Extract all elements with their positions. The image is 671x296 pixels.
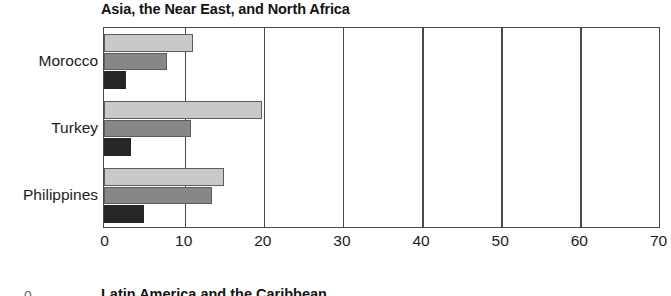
bar-turkey-series-2 bbox=[104, 120, 191, 138]
y-axis-category-labels: MoroccoTurkeyPhilippines bbox=[0, 27, 98, 228]
gridline-30 bbox=[343, 28, 345, 227]
bar-morocco-series-2 bbox=[104, 53, 167, 71]
chart-figure: Asia, the Near East, and North Africa Mo… bbox=[0, 0, 671, 296]
next-panel-title: Latin America and the Caribbean bbox=[101, 286, 327, 296]
next-panel-tick: 0 bbox=[24, 288, 32, 296]
bar-morocco-series-1 bbox=[104, 34, 193, 52]
x-tick-20: 20 bbox=[254, 232, 271, 250]
category-label-morocco: Morocco bbox=[0, 52, 98, 70]
x-tick-10: 10 bbox=[175, 232, 192, 250]
gridline-50 bbox=[501, 28, 503, 227]
chart-title: Asia, the Near East, and North Africa bbox=[101, 1, 350, 17]
x-tick-0: 0 bbox=[100, 232, 109, 250]
gridline-40 bbox=[422, 28, 424, 227]
gridline-20 bbox=[264, 28, 266, 227]
gridline-60 bbox=[580, 28, 582, 227]
x-tick-70: 70 bbox=[650, 232, 667, 250]
category-label-turkey: Turkey bbox=[0, 119, 98, 137]
plot-area bbox=[103, 27, 660, 228]
bar-philippines-series-1 bbox=[104, 168, 224, 186]
x-axis-tick-labels: 010203040506070 bbox=[0, 232, 671, 254]
bar-turkey-series-3 bbox=[104, 138, 131, 156]
bar-philippines-series-2 bbox=[104, 187, 212, 205]
x-tick-40: 40 bbox=[412, 232, 429, 250]
bar-turkey-series-1 bbox=[104, 101, 262, 119]
bar-morocco-series-3 bbox=[104, 71, 126, 89]
category-label-philippines: Philippines bbox=[0, 186, 98, 204]
bar-philippines-series-3 bbox=[104, 205, 144, 223]
x-tick-50: 50 bbox=[492, 232, 509, 250]
x-tick-30: 30 bbox=[333, 232, 350, 250]
x-tick-60: 60 bbox=[571, 232, 588, 250]
